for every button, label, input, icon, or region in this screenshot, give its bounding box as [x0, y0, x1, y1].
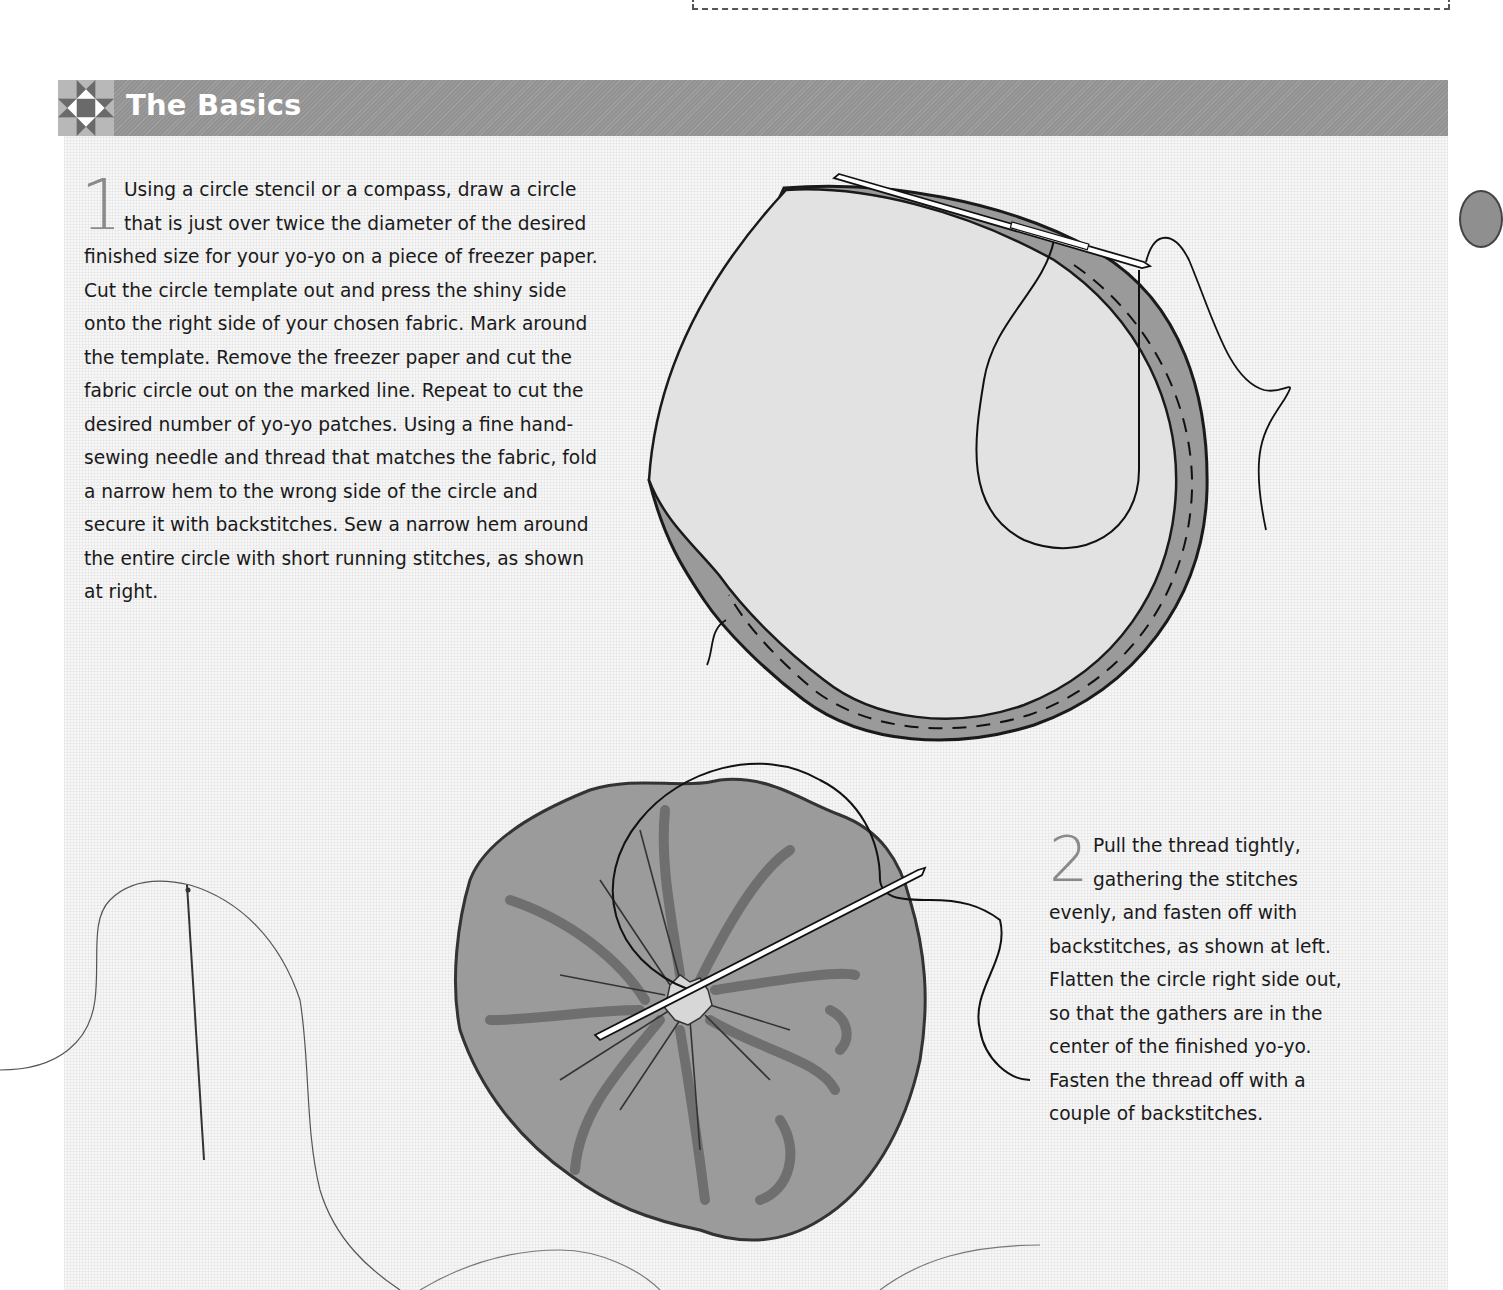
basics-panel: The Basics 1 Using a circle stencil or a… [64, 80, 1448, 1290]
needle-and-thread-illustration [0, 860, 1110, 1290]
top-dashed-border [692, 0, 1450, 10]
step-number: 1 [80, 169, 114, 229]
page-edge-circle-decoration [1459, 190, 1503, 248]
section-header: The Basics [64, 80, 1448, 136]
fabric-circle-illustration [634, 170, 1314, 770]
step-text: Using a circle stencil or a compass, dra… [84, 179, 598, 602]
step-1: 1 Using a circle stencil or a compass, d… [84, 173, 604, 609]
ohio-star-quilt-block-icon [58, 80, 114, 136]
section-title: The Basics [126, 88, 302, 122]
